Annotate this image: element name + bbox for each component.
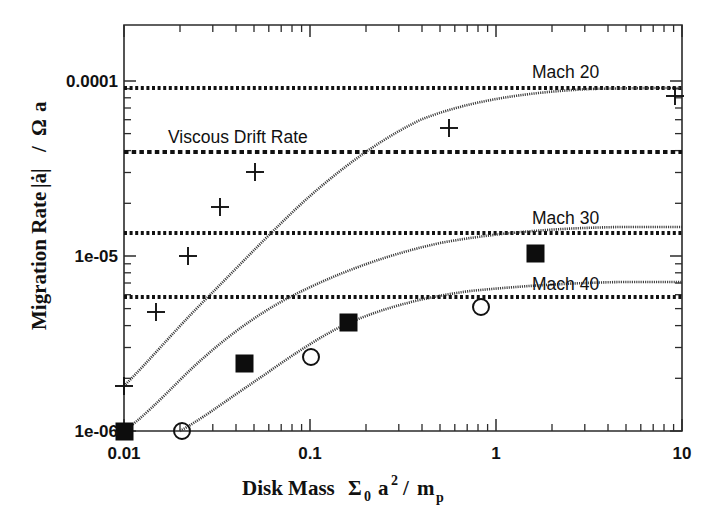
markers-mach-40 [174, 299, 489, 439]
x-axis-minor-ticks [180, 25, 674, 431]
y-axis-label-text: Migration Rate [27, 192, 51, 330]
curve-mach-40 [180, 282, 682, 431]
annotation-viscous-drift-rate: Viscous Drift Rate [168, 127, 308, 147]
y-tick-label-0-0001: 0.0001 [66, 72, 118, 91]
x-axis-label-sigma-sub: 0 [364, 489, 371, 504]
marker-circle [303, 349, 319, 365]
marker-plus [147, 303, 165, 321]
migration-rate-chart: Mach 20 Viscous Drift Rate Mach 30 Mach … [0, 0, 726, 514]
x-axis-label-m: m [417, 476, 435, 500]
annotation-mach-30: Mach 30 [532, 208, 599, 228]
y-axis-label-slash: / [27, 145, 51, 153]
x-tick-label-0-1: 0.1 [298, 444, 322, 463]
x-axis-label-a-sup: 2 [391, 473, 398, 488]
y-axis-label: Migration Rate |ȧ| / Ω a [27, 101, 51, 330]
marker-plus [246, 163, 264, 181]
marker-square [527, 245, 544, 262]
y-tick-label-1e-05: 1e-05 [75, 247, 118, 266]
y-axis-label-adot: |ȧ| [27, 168, 51, 188]
x-tick-label-10: 10 [673, 444, 692, 463]
marker-square [340, 314, 357, 331]
x-axis-label-sigma: Σ [348, 476, 362, 500]
markers-mach-30 [116, 245, 544, 440]
marker-square [236, 355, 253, 372]
x-axis-label-text: Disk Mass [242, 476, 335, 500]
y-axis-label-a: a [27, 101, 51, 112]
marker-plus [211, 198, 229, 216]
annotation-mach-40: Mach 40 [532, 274, 599, 294]
y-tick-label-1e-06: 1e-06 [75, 422, 118, 441]
figure-container: Mach 20 Viscous Drift Rate Mach 30 Mach … [0, 0, 726, 514]
x-axis-label: Disk Mass Σ 0 a 2 / m p [242, 473, 444, 505]
reference-lines [124, 88, 682, 297]
marker-plus [440, 119, 458, 137]
x-tick-label-0-01: 0.01 [107, 444, 140, 463]
marker-plus [179, 247, 197, 265]
x-tick-label-1: 1 [491, 444, 500, 463]
x-axis-label-slash: / [402, 476, 410, 500]
curve-mach-30 [124, 227, 682, 431]
marker-circle [473, 299, 489, 315]
x-axis-label-a: a [378, 476, 389, 500]
marker-square [116, 423, 133, 440]
annotation-mach-20: Mach 20 [532, 62, 599, 82]
x-axis-label-m-sub: p [436, 490, 444, 505]
y-axis-label-omega: Ω [27, 119, 51, 136]
